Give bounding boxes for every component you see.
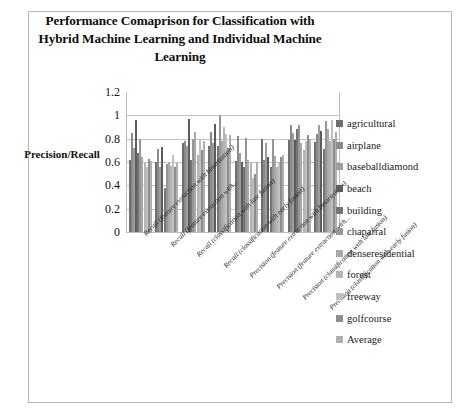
x-axis-labels: Recall (feature extraction with binariza… (0, 232, 340, 382)
legend-item: building (336, 199, 456, 221)
bar-groups (127, 92, 339, 232)
y-axis-title: Precision/Recall (22, 148, 102, 161)
legend-item: forest (336, 264, 456, 286)
legend-item: agricultural (336, 113, 456, 135)
legend-swatch-icon (336, 250, 343, 257)
legend-swatch-icon (336, 163, 343, 170)
legend-item: denseresidential (336, 243, 456, 265)
legend-item: freeway (336, 286, 456, 308)
bar-group (127, 92, 154, 232)
legend-swatch-icon (336, 315, 343, 322)
legend-item: airplane (336, 135, 456, 157)
legend-swatch-icon (336, 207, 343, 214)
bar-group (286, 92, 313, 232)
legend-swatch-icon (336, 293, 343, 300)
legend-label: golfcourse (347, 313, 391, 324)
legend-swatch-icon (336, 142, 343, 149)
y-tick-label: 0.4 (105, 178, 120, 193)
legend-label: airplane (347, 140, 381, 151)
legend-swatch-icon (336, 120, 343, 127)
legend-label: denseresidential (347, 248, 415, 259)
legend-label: freeway (347, 291, 381, 302)
legend-item: baseballdiamond (336, 156, 456, 178)
legend-item: Average (336, 329, 456, 351)
legend-item: beach (336, 178, 456, 200)
legend-label: beach (347, 183, 371, 194)
y-tick-label: 0.6 (105, 155, 120, 170)
legend-label: building (347, 205, 382, 216)
legend-swatch-icon (336, 228, 343, 235)
legend-label: agricultural (347, 118, 395, 129)
legend-label: baseballdiamond (347, 161, 418, 172)
bar (282, 155, 284, 232)
y-axis-ticks: 00.20.40.60.811.2 (96, 92, 124, 244)
legend-item: chaparral (336, 221, 456, 243)
y-tick-label: 1 (114, 108, 120, 123)
legend-label: Average (347, 334, 382, 345)
legend-label: forest (347, 269, 371, 280)
legend-swatch-icon (336, 185, 343, 192)
y-tick-label: 0.8 (105, 131, 120, 146)
legend-label: chaparral (347, 226, 386, 237)
y-tick-label: 0.2 (105, 201, 120, 216)
plot-area (126, 92, 340, 233)
chart-legend: agriculturalairplanebaseballdiamondbeach… (336, 113, 456, 351)
y-tick-label: 1.2 (105, 85, 120, 100)
legend-swatch-icon (336, 271, 343, 278)
legend-swatch-icon (336, 336, 343, 343)
chart-title: Performance Comaprison for Classificatio… (30, 12, 330, 66)
legend-item: golfcourse (336, 307, 456, 329)
